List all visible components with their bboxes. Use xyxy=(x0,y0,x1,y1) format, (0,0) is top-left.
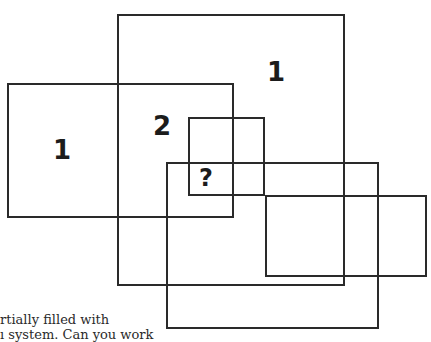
label-overlap: 2 xyxy=(153,113,171,139)
label-top-right: 1 xyxy=(267,59,285,85)
rectangle-right xyxy=(265,195,427,277)
label-left: 1 xyxy=(53,137,71,163)
label-question: ? xyxy=(199,166,213,190)
caption-line-2: ı system. Can you work xyxy=(0,327,153,342)
caption-line-1: rtially filled with xyxy=(0,312,109,327)
